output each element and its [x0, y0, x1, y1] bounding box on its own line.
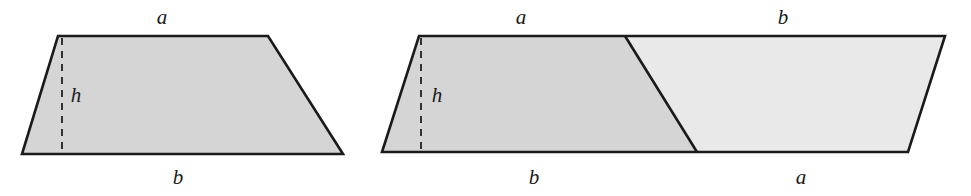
parallelogram-label-bottom-left-b: b [529, 165, 540, 189]
trapezoid-label-top-a: a [157, 5, 168, 29]
figure-canvas: a b h a b b a h [0, 0, 971, 196]
parallelogram-label-top-right-b: b [778, 5, 789, 29]
trapezoid-label-height-h: h [71, 83, 82, 107]
parallelogram-label-bottom-right-a: a [796, 165, 807, 189]
parallelogram-label-top-left-a: a [516, 5, 527, 29]
parallelogram-label-height-h: h [432, 83, 443, 107]
panel-parallelogram: a b b a h [382, 5, 945, 189]
trapezoid-label-bottom-b: b [173, 165, 184, 189]
geometry-figure: a b h a b b a h [0, 0, 971, 196]
panel-trapezoid: a b h [22, 5, 343, 189]
